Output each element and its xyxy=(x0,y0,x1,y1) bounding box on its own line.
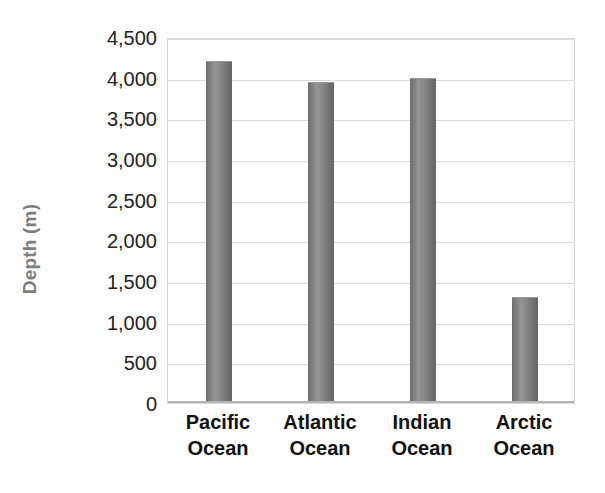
x-axis-category-label-line: Indian xyxy=(371,410,473,436)
x-axis-category-label-line: Ocean xyxy=(269,436,371,462)
x-axis-category-label-line: Ocean xyxy=(473,436,575,462)
y-axis-tick-label: 1,500 xyxy=(60,272,157,292)
bar[interactable] xyxy=(410,78,436,403)
x-axis-category-label-line: Ocean xyxy=(371,436,473,462)
y-axis-title: Depth (m) xyxy=(13,219,47,279)
bar-slot xyxy=(270,39,372,403)
y-axis-tick-label: 2,500 xyxy=(60,191,157,211)
y-axis-tick-label: 3,500 xyxy=(60,109,157,129)
x-axis-category-label-line: Arctic xyxy=(473,410,575,436)
y-axis-tick-label: 1,000 xyxy=(60,313,157,333)
bar-chart-figure: Depth (m) 4,5004,0003,5003,0002,5002,000… xyxy=(0,0,605,493)
bar[interactable] xyxy=(308,82,334,403)
plot-area xyxy=(167,38,575,404)
x-axis-line xyxy=(168,401,574,403)
bars-layer xyxy=(168,39,574,403)
bar-slot xyxy=(168,39,270,403)
y-axis-tick-label: 4,500 xyxy=(60,28,157,48)
bar-slot xyxy=(372,39,474,403)
x-axis-category-label: IndianOcean xyxy=(371,410,473,461)
x-axis-category-label: AtlanticOcean xyxy=(269,410,371,461)
x-axis-category-label-line: Atlantic xyxy=(269,410,371,436)
y-axis-tick-label: 4,000 xyxy=(60,69,157,89)
x-axis-category-label-line: Pacific xyxy=(167,410,269,436)
x-axis-category-label: ArcticOcean xyxy=(473,410,575,461)
x-axis-category-labels: PacificOceanAtlanticOceanIndianOceanArct… xyxy=(167,410,575,480)
x-axis-category-label-line: Ocean xyxy=(167,436,269,462)
x-axis-category-label: PacificOcean xyxy=(167,410,269,461)
y-axis-tick-label: 0 xyxy=(60,394,157,414)
y-axis-tick-label: 3,000 xyxy=(60,150,157,170)
y-axis-tick-labels: 4,5004,0003,5003,0002,5002,0001,5001,000… xyxy=(60,38,157,404)
y-axis-tick-label: 2,000 xyxy=(60,231,157,251)
y-axis-tick-label: 500 xyxy=(60,353,157,373)
bar[interactable] xyxy=(206,61,232,403)
bar-slot xyxy=(474,39,576,403)
bar[interactable] xyxy=(512,297,538,403)
